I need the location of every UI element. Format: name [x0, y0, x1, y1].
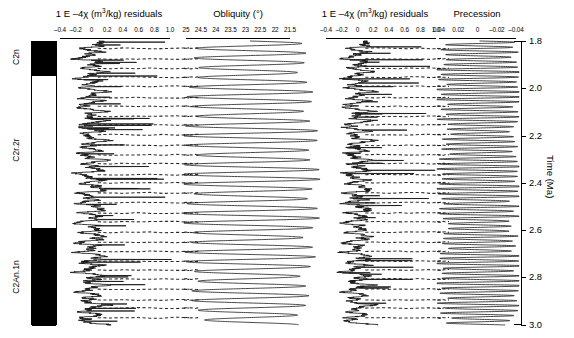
xtick-label: 0.04 [433, 26, 445, 33]
data-trace [184, 41, 320, 325]
time-tick [521, 230, 526, 231]
data-trace [98, 134, 189, 135]
data-trace [184, 317, 200, 318]
chron-label-c2r2r: C2r.2r [11, 124, 21, 176]
time-tick [521, 325, 526, 326]
magnetic-polarity-column [31, 41, 57, 325]
data-trace [184, 270, 200, 271]
time-tick-label: 2.6 [529, 224, 542, 235]
chron-band-c2n [32, 42, 56, 76]
data-trace [337, 41, 435, 325]
data-trace [98, 270, 189, 271]
data-trace [437, 106, 449, 107]
xtick-label: 23.5 [225, 26, 237, 33]
xtick-label: –0.2 [336, 26, 348, 33]
data-trace [365, 213, 441, 214]
data-trace [365, 270, 441, 271]
data-trace [365, 192, 441, 193]
panel-title-text: Obliquity (°) [213, 8, 263, 19]
data-trace [98, 163, 189, 164]
time-tick [521, 41, 526, 42]
plot-pane-precession [436, 39, 520, 327]
data-trace [365, 124, 441, 125]
data-trace [98, 202, 189, 203]
data-trace [98, 279, 189, 280]
data-trace [437, 232, 449, 233]
panel-title-precession: Precession [437, 8, 517, 19]
data-trace [98, 77, 189, 78]
data-trace [184, 68, 200, 69]
data-trace [98, 192, 189, 193]
data-trace [98, 261, 189, 262]
xtick-label: 0 [356, 26, 359, 33]
panel-title-text: 1 E –4χ (m [56, 8, 102, 19]
data-trace [365, 182, 441, 183]
data-trace [365, 145, 441, 146]
panel-title-text-tail: /kg) residuals [106, 8, 163, 19]
xtick-label: –0.04 [508, 26, 524, 33]
data-trace [365, 251, 441, 252]
xtick-label: –0.4 [320, 26, 332, 33]
data-trace [437, 116, 449, 117]
data-trace [184, 289, 200, 290]
data-trace [98, 213, 189, 214]
time-tick [521, 277, 526, 278]
panel-title-text: 1 E –4χ (m [322, 8, 368, 19]
data-trace [98, 251, 189, 252]
data-trace [365, 116, 441, 117]
chron-label-c2n: C2n [11, 39, 21, 75]
data-trace [437, 97, 449, 98]
data-trace [98, 154, 189, 155]
data-trace [98, 116, 189, 117]
xtick-label: 0.6 [134, 26, 143, 33]
time-tick [521, 183, 526, 184]
data-trace [437, 221, 449, 222]
xtick-label: 0.2 [103, 26, 112, 33]
data-trace [437, 300, 449, 301]
data-trace [437, 41, 519, 325]
xtick-label: 1.0 [166, 26, 175, 33]
time-tick-label: 2.4 [529, 177, 542, 188]
cyclostratigraphy-figure: 1 E –4χ (m3/kg) residuals Obliquity (°) … [0, 0, 574, 338]
xtick-label: 0.6 [400, 26, 409, 33]
data-trace [365, 68, 441, 69]
xtick-label: 0 [90, 26, 93, 33]
data-trace [98, 317, 189, 318]
chron-band-c2an1n [32, 228, 56, 326]
xtick-label: 0.2 [369, 26, 378, 33]
data-trace [365, 232, 441, 233]
xtick-label: 0.02 [452, 26, 464, 33]
data-trace [98, 289, 189, 290]
panel-title-susceptibility-left: 1 E –4χ (m3/kg) residuals [45, 8, 173, 19]
data-trace [365, 97, 441, 98]
data-trace [437, 317, 449, 318]
data-trace [437, 182, 449, 183]
time-tick [521, 88, 526, 89]
data-trace [365, 134, 441, 135]
time-axis-title: Time (Ma) [545, 155, 556, 198]
data-trace [98, 68, 189, 69]
data-trace [365, 86, 441, 87]
panel-title-text: Precession [454, 8, 501, 19]
panel-title-susceptibility-right: 1 E –4χ (m3/kg) residuals [311, 8, 439, 19]
data-trace [98, 174, 189, 175]
xtick-label: –0.02 [489, 26, 505, 33]
time-tick-label: 2.8 [529, 271, 542, 282]
time-tick-label: 2.2 [529, 130, 542, 141]
data-trace [365, 242, 441, 243]
data-trace [365, 174, 441, 175]
data-trace [365, 222, 441, 223]
time-tick [521, 136, 526, 137]
data-trace [184, 279, 200, 280]
xtick-label: 0.4 [385, 26, 394, 33]
xtick-label: 24.5 [195, 26, 207, 33]
xtick-label: –0.2 [70, 26, 82, 33]
data-trace [365, 289, 441, 290]
data-trace [365, 308, 441, 309]
data-trace [98, 106, 189, 107]
data-trace [98, 242, 189, 243]
xtick-label: 22 [272, 26, 279, 33]
xtick-label: 22.5 [254, 26, 266, 33]
panel-title-obliquity: Obliquity (°) [198, 8, 278, 19]
data-trace [437, 145, 449, 146]
